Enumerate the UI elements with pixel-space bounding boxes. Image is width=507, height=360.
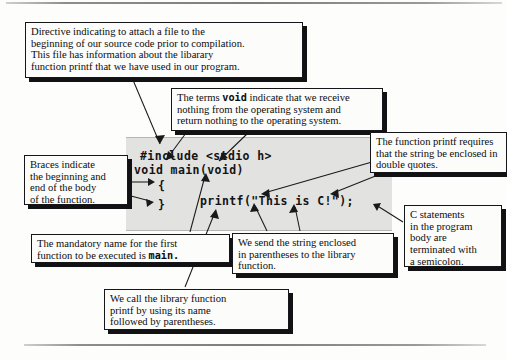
callout-printf-double-quotes: The function printf requires that the st… — [370, 132, 507, 173]
callout-printf-quotes-line-1: The function printf requires — [376, 136, 501, 148]
callout-directive-line-4: function printf that we have used in our… — [31, 61, 297, 73]
callout-main-name-pre: function to be executed is — [37, 250, 149, 261]
callout-directive-line-2: beginning of our source code prior to co… — [31, 38, 297, 50]
callout-call-line-1: We call the library function — [110, 293, 283, 305]
callout-main-name-line-2: function to be executed is main. — [37, 250, 224, 262]
callout-printf-quotes-line-2: that the string be enclosed in — [376, 148, 501, 160]
callout-parens-line-3: function. — [238, 260, 388, 272]
callout-void-keyword: The terms void indicate that we receive … — [171, 88, 383, 131]
code-line-include-directive: #include <stdio h> — [140, 149, 272, 163]
callout-void-line-1: The terms void indicate that we receive — [177, 92, 377, 104]
callout-braces-line-4: of the function. — [30, 194, 122, 206]
code-line-open-brace: { — [158, 179, 165, 193]
callout-parens-line-2: in parentheses to the library — [238, 249, 388, 261]
callout-semicolon-line-4: terminated with — [410, 244, 496, 256]
callout-call-line-3: followed by parentheses. — [110, 316, 283, 328]
callout-call-line-2: printf by using its name — [110, 305, 283, 317]
callout-library-function-call: We call the library function printf by u… — [104, 289, 289, 330]
callout-braces-line-1: Braces indicate — [30, 159, 122, 171]
callout-main-name-mono: main. — [149, 250, 180, 261]
callout-main-function-name: The mandatory name for the first functio… — [31, 234, 230, 263]
callout-semicolon-line-3: body are — [410, 232, 496, 244]
figure-page: #include <stdio h> void main(void) { pri… — [0, 0, 507, 360]
code-line-printf-statement: printf("This is C!"); — [200, 194, 354, 208]
callout-printf-quotes-line-3: double quotes. — [376, 159, 501, 171]
callout-directive-line-1: Directive indicating to attach a file to… — [31, 26, 297, 38]
callout-directive-line-3: This file has information about the liba… — [31, 49, 297, 61]
callout-void-pre: The terms — [177, 92, 222, 103]
code-line-function-signature: void main(void) — [134, 163, 244, 177]
leader-directive — [133, 80, 160, 144]
callout-void-mono: void — [222, 92, 247, 103]
callout-void-line-2: nothing from the operating system and — [177, 104, 377, 116]
callout-parens-line-1: We send the string enclosed — [238, 237, 388, 249]
callout-braces-line-3: end of the body — [30, 182, 122, 194]
callout-void-line-3: return nothing to the operating system. — [177, 115, 377, 127]
callout-semicolon: C statements in the program body are ter… — [404, 205, 502, 267]
callout-parentheses-string: We send the string enclosed in parenthes… — [232, 233, 394, 274]
page-rule-bottom — [24, 344, 486, 346]
callout-semicolon-line-2: in the program — [410, 221, 496, 233]
callout-void-post: indicate that we receive — [247, 92, 350, 103]
callout-main-name-line-1: The mandatory name for the first — [37, 238, 224, 250]
callout-include-directive: Directive indicating to attach a file to… — [25, 22, 303, 78]
callout-semicolon-line-5: a semicolon. — [410, 256, 496, 268]
code-line-close-brace: } — [158, 198, 165, 212]
callout-semicolon-line-1: C statements — [410, 209, 496, 221]
callout-braces: Braces indicate the beginning and end of… — [24, 155, 128, 205]
callout-braces-line-2: the beginning and — [30, 171, 122, 183]
page-rule-top — [6, 2, 502, 4]
